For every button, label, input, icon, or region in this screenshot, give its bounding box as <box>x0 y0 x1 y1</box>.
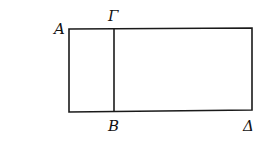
outer-rectangle <box>69 28 252 112</box>
label-b: B <box>107 117 119 135</box>
label-gamma: Γ <box>107 7 119 25</box>
diagram: A Γ B Δ <box>0 0 278 150</box>
label-delta: Δ <box>242 117 254 135</box>
label-a: A <box>52 20 65 38</box>
